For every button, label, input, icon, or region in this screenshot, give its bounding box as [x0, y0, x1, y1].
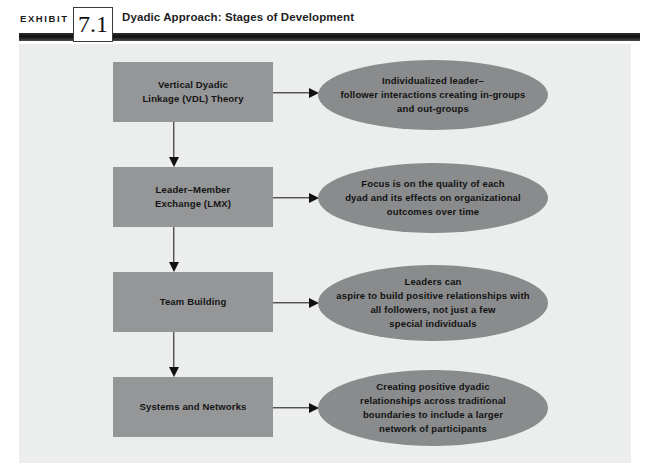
process-box-stage-2: Leader–Member Exchange (LMX)	[113, 167, 273, 227]
arrow-stage-1-to-stage-2	[168, 122, 179, 167]
outcome-ellipse-stage-2: Focus is on the quality of each dyad and…	[318, 163, 548, 233]
outcome-ellipse-label: Focus is on the quality of each dyad and…	[333, 177, 533, 219]
arrow-stage-1-to-outcome-1	[273, 87, 319, 98]
arrow-shaft	[173, 227, 174, 263]
process-box-label: Vertical Dyadic Linkage (VDL) Theory	[142, 78, 243, 106]
arrow-stage-2-to-stage-3	[168, 227, 179, 272]
process-box-stage-3: Team Building	[113, 272, 273, 332]
arrow-shaft	[273, 92, 310, 93]
arrow-shaft	[173, 122, 174, 158]
exhibit-number-label: 7.1	[74, 8, 112, 41]
process-box-stage-4: Systems and Networks	[113, 377, 273, 437]
process-box-stage-1: Vertical Dyadic Linkage (VDL) Theory	[113, 62, 273, 122]
page-title: Dyadic Approach: Stages of Development	[122, 11, 354, 23]
arrow-head	[169, 367, 179, 377]
process-box-label: Systems and Networks	[139, 400, 246, 414]
outcome-ellipse-label: Individualized leader– follower interact…	[329, 74, 538, 116]
exhibit-header: EXHIBIT 7.1 Dyadic Approach: Stages of D…	[0, 0, 652, 48]
exhibit-word-label: EXHIBIT	[20, 13, 69, 24]
diagram-panel: Vertical Dyadic Linkage (VDL) Theory Ind…	[19, 44, 631, 463]
exhibit-page: EXHIBIT 7.1 Dyadic Approach: Stages of D…	[0, 0, 652, 476]
process-box-label: Team Building	[160, 295, 227, 309]
outcome-ellipse-stage-3: Leaders can aspire to build positive rel…	[318, 265, 548, 341]
outcome-ellipse-stage-1: Individualized leader– follower interact…	[318, 60, 548, 130]
arrow-head	[169, 262, 179, 272]
arrow-shaft	[273, 197, 310, 198]
arrow-stage-3-to-outcome-3	[273, 297, 319, 308]
outcome-ellipse-label: Leaders can aspire to build positive rel…	[324, 275, 541, 331]
arrow-head	[169, 157, 179, 167]
exhibit-number-box: 7.1	[73, 7, 113, 42]
process-box-label: Leader–Member Exchange (LMX)	[155, 183, 231, 211]
outcome-ellipse-stage-4: Creating positive dyadic relationships a…	[318, 370, 548, 446]
outcome-ellipse-label: Creating positive dyadic relationships a…	[348, 380, 518, 436]
arrow-shaft	[273, 302, 310, 303]
arrow-shaft	[273, 407, 310, 408]
arrow-stage-4-to-outcome-4	[273, 402, 319, 413]
arrow-shaft	[173, 332, 174, 368]
arrow-stage-2-to-outcome-2	[273, 192, 319, 203]
arrow-stage-3-to-stage-4	[168, 332, 179, 377]
